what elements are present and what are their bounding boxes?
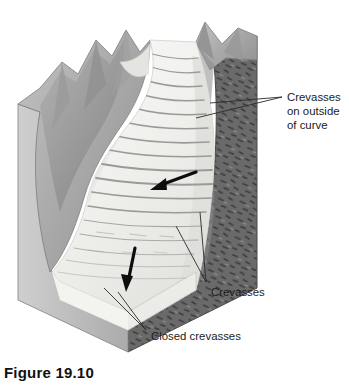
glacier-block-diagram: Crevasses on outside of curve Crevasses … xyxy=(0,0,349,390)
label-crevasses-outside-line3: of curve xyxy=(287,119,328,131)
label-crevasses-outside-line1: Crevasses xyxy=(287,91,341,103)
label-crevasses-outside-line2: on outside xyxy=(287,105,340,117)
label-closed-crevasses: Closed crevasses xyxy=(151,330,241,342)
figure-caption: Figure 19.10 xyxy=(4,364,94,381)
label-crevasses: Crevasses xyxy=(211,286,265,298)
figure-container: Crevasses on outside of curve Crevasses … xyxy=(0,0,349,390)
